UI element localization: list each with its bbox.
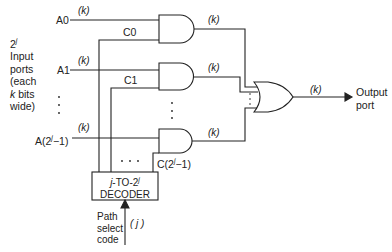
input-ports-label: 2j Input ports (each k bits wide) — [10, 35, 36, 113]
control-line-c1 — [111, 88, 159, 172]
and-output-0-width: (k) — [208, 14, 220, 26]
input-an-width: (k) — [78, 122, 90, 134]
control-line-c0 — [99, 40, 159, 172]
path-select-label: Path select code — [97, 211, 123, 246]
and-output-1-width: (k) — [208, 62, 220, 74]
input-a1-label: A1 — [57, 64, 70, 76]
input-an-label: A(2j−1) — [35, 132, 68, 147]
circuit-wiring — [0, 0, 392, 252]
select-width: ( j ) — [130, 218, 144, 230]
output-arrow-icon — [345, 93, 352, 101]
and-output-n — [192, 108, 257, 141]
decoder-label: j-TO-2j DECODER — [92, 172, 158, 200]
and-gate-n — [159, 129, 192, 153]
multiplexer-diagram: 2j Input ports (each k bits wide) A0 (k)… — [0, 0, 392, 252]
or-output-width: (k) — [310, 84, 322, 96]
and-output-0 — [194, 29, 257, 87]
input-a0-width: (k) — [78, 5, 90, 17]
and-gate-1 — [159, 63, 194, 90]
control-c0-label: C0 — [123, 26, 136, 38]
output-port-label: Output port — [356, 86, 388, 111]
and-gate-0 — [159, 15, 194, 43]
input-a0-label: A0 — [56, 14, 69, 26]
control-cn-label: C(2j−1) — [157, 155, 191, 170]
control-c1-label: C1 — [124, 74, 137, 86]
or-gate — [254, 82, 293, 112]
input-a1-width: (k) — [78, 55, 90, 67]
and-output-n-width: (k) — [208, 127, 220, 139]
and-output-1 — [193, 77, 258, 92]
